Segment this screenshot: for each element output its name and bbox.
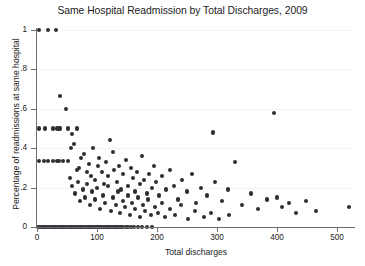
scatter-chart-figure: Same Hospital Readmission by Total Disch… (0, 0, 365, 266)
y-tick-label-0: 0 (0, 223, 27, 231)
x-tick-label-4: 400 (257, 234, 297, 242)
scatter-point (130, 201, 134, 205)
scatter-point (140, 154, 144, 158)
scatter-point (180, 178, 184, 182)
scatter-point (156, 211, 160, 215)
scatter-point (66, 126, 70, 130)
scatter-point (138, 182, 142, 186)
x-tick-mark-4 (277, 228, 278, 232)
scatter-point (69, 146, 73, 150)
y-tick-mark-3 (31, 109, 36, 110)
chart-title: Same Hospital Readmission by Total Disch… (0, 5, 365, 16)
scatter-point (217, 217, 221, 221)
scatter-point (249, 191, 253, 195)
scatter-point (146, 197, 150, 201)
scatter-point (117, 164, 121, 168)
scatter-point (287, 201, 291, 205)
scatter-point (104, 160, 108, 164)
scatter-point (73, 191, 77, 195)
scatter-point (98, 207, 102, 211)
scatter-point (64, 107, 68, 111)
scatter-point (211, 130, 215, 134)
scatter-point (143, 209, 147, 213)
scatter-point (83, 195, 87, 199)
y-tick-mark-1 (31, 188, 36, 189)
scatter-point (90, 189, 94, 193)
x-axis-title: Total discharges (37, 247, 355, 257)
scatter-point (88, 203, 92, 207)
scatter-point (87, 162, 91, 166)
scatter-point (173, 213, 177, 217)
scatter-point (256, 207, 260, 211)
scatter-point (126, 184, 130, 188)
x-tick-label-3: 300 (197, 234, 237, 242)
scatter-point (58, 94, 62, 98)
x-axis-line (36, 227, 355, 228)
scatter-point (205, 193, 209, 197)
scatter-point (95, 186, 99, 190)
scatter-point (149, 213, 153, 217)
scatter-point (68, 176, 72, 180)
scatter-point (133, 207, 137, 211)
scatter-point (106, 184, 110, 188)
scatter-point (42, 159, 46, 163)
scatter-point (108, 138, 112, 142)
scatter-point (121, 199, 125, 203)
scatter-point (89, 174, 93, 178)
scatter-point (96, 164, 100, 168)
scatter-point (77, 166, 81, 170)
scatter-point (66, 159, 70, 163)
scatter-point (280, 205, 284, 209)
scatter-point (70, 132, 74, 136)
y-tick-mark-0 (31, 227, 36, 228)
scatter-point (213, 180, 217, 184)
scatter-point (136, 195, 140, 199)
scatter-points-layer (37, 30, 355, 227)
y-axis-line (36, 28, 37, 228)
scatter-point (304, 199, 308, 203)
x-tick-mark-1 (97, 228, 98, 232)
scatter-point (46, 28, 50, 32)
scatter-point (164, 187, 168, 191)
scatter-point (168, 168, 172, 172)
scatter-point (76, 180, 80, 184)
x-tick-label-2: 200 (137, 234, 177, 242)
x-tick-label-1: 100 (77, 234, 117, 242)
scatter-point (100, 170, 104, 174)
scatter-point (61, 159, 65, 163)
x-tick-mark-3 (217, 228, 218, 232)
scatter-point (294, 211, 298, 215)
scatter-point (109, 209, 113, 213)
scatter-point (199, 186, 203, 190)
scatter-point (227, 213, 231, 217)
scatter-point (85, 182, 89, 186)
y-tick-mark-5 (31, 30, 36, 31)
scatter-point (152, 164, 156, 168)
scatter-point (275, 195, 279, 199)
scatter-point (93, 178, 97, 182)
y-axis-title: Percentage of readmissions at same hospi… (11, 24, 21, 224)
scatter-point (131, 176, 135, 180)
scatter-point (37, 126, 41, 130)
scatter-point (179, 203, 183, 207)
scatter-point (194, 201, 198, 205)
scatter-point (54, 28, 58, 32)
scatter-point (265, 197, 269, 201)
scatter-point (272, 111, 276, 115)
scatter-point (154, 180, 158, 184)
scatter-point (111, 195, 115, 199)
scatter-point (79, 156, 83, 160)
scatter-point (114, 203, 118, 207)
scatter-point (37, 159, 41, 163)
scatter-point (116, 189, 120, 193)
scatter-point (81, 187, 85, 191)
scatter-point (209, 211, 213, 215)
scatter-point (101, 193, 105, 197)
scatter-point (121, 172, 125, 176)
scatter-point (314, 209, 318, 213)
scatter-point (111, 150, 115, 154)
scatter-point (163, 215, 167, 219)
plot-area (37, 30, 355, 227)
scatter-point (37, 28, 41, 32)
scatter-point (103, 201, 107, 205)
